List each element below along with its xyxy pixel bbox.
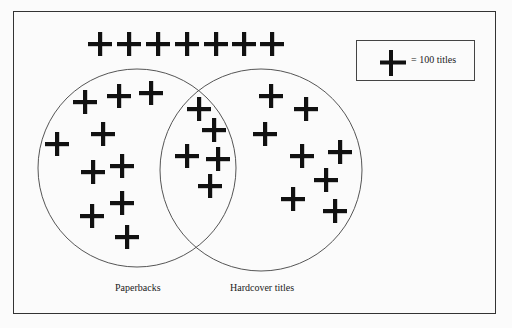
plus-icon	[110, 154, 134, 178]
paperbacks-label: Paperbacks	[115, 282, 161, 293]
plus-icon	[107, 84, 131, 108]
plus-icon	[115, 225, 139, 249]
plus-icon	[81, 160, 105, 184]
plus-icon	[175, 32, 199, 56]
plus-icon	[198, 174, 222, 198]
legend-label: = 100 titles	[411, 54, 456, 65]
plus-icon	[281, 187, 305, 211]
plus-icon	[253, 122, 277, 146]
cross-symbols	[45, 32, 352, 249]
plus-icon	[373, 41, 413, 80]
plus-icon	[202, 118, 226, 142]
plus-icon	[146, 32, 170, 56]
venn-diagram: = 100 titles Paperbacks Hardcover titles	[0, 0, 512, 328]
plus-icon	[294, 97, 318, 121]
plus-icon	[139, 81, 163, 105]
group-both	[175, 97, 230, 198]
plus-icon	[117, 32, 141, 56]
plus-icon	[175, 144, 199, 168]
plus-icon	[88, 32, 112, 56]
plus-icon	[323, 199, 347, 223]
plus-icon	[232, 32, 256, 56]
plus-icon	[91, 122, 115, 146]
plus-icon	[259, 84, 283, 108]
plus-icon	[204, 32, 228, 56]
hardcover-titles-label: Hardcover titles	[230, 282, 294, 293]
plus-icon	[290, 144, 314, 168]
plus-icon	[260, 32, 284, 56]
group-outside	[88, 32, 284, 56]
group-hardcover-only	[253, 84, 352, 223]
plus-icon	[314, 168, 338, 192]
plus-icon	[80, 204, 104, 228]
plus-icon	[328, 140, 352, 164]
plus-icon	[110, 191, 134, 215]
plus-icon	[73, 90, 97, 114]
plus-icon	[187, 97, 211, 121]
legend-box: = 100 titles	[356, 40, 475, 81]
hardcover-circle	[160, 69, 362, 271]
plus-icon	[206, 147, 230, 171]
plus-icon	[45, 132, 69, 156]
group-paperbacks-only	[45, 81, 163, 249]
